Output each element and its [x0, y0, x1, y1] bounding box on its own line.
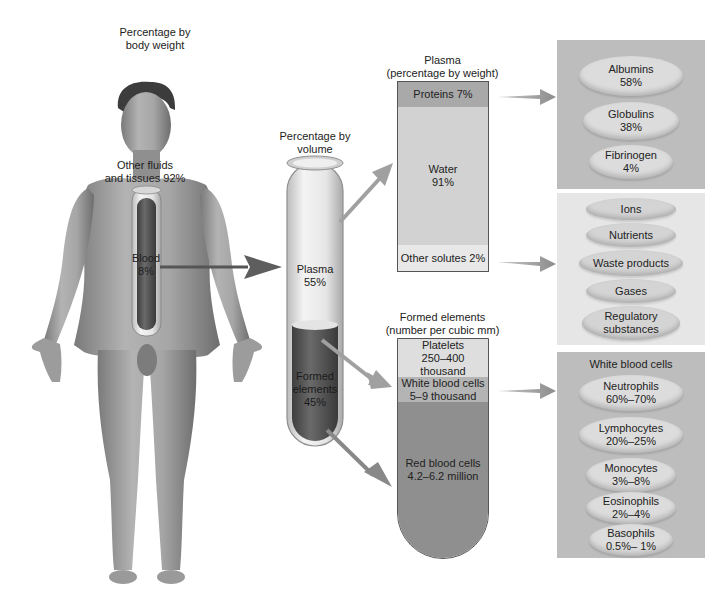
- platelets-label-line1: Platelets: [422, 339, 464, 352]
- tube-formed-line1: Formed: [285, 370, 345, 383]
- arrow-formed-to-rbc: [327, 430, 392, 487]
- neutrophils-name: Neutrophils: [603, 380, 659, 393]
- regulatory-substances-oval: Regulatory substances: [582, 306, 680, 340]
- globulins-value: 38%: [620, 121, 642, 134]
- monocytes-oval: Monocytes 3%–8%: [586, 458, 676, 492]
- basophils-name: Basophils: [607, 527, 655, 540]
- volume-title-line1: Percentage by: [270, 130, 360, 143]
- eosinophils-name: Eosinophils: [603, 495, 659, 508]
- other-fluids-line1: Other fluids: [95, 159, 195, 172]
- basophils-oval: Basophils 0.5%– 1%: [589, 524, 673, 556]
- arrow-plasma-to-box: [340, 163, 393, 222]
- albumins-oval: Albumins 58%: [579, 56, 683, 96]
- proteins-segment: Proteins 7%: [398, 82, 488, 107]
- body-weight-title: Percentage by body weight: [105, 26, 205, 52]
- other-solutes-label: Other solutes 2%: [401, 252, 485, 265]
- other-fluids-line2: and tissues 92%: [95, 172, 195, 185]
- regulatory-label-line1: Regulatory: [604, 310, 657, 323]
- lymphocytes-value: 20%–25%: [606, 435, 656, 448]
- monocytes-value: 3%–8%: [612, 475, 650, 488]
- plasma-box-title-line1: Plasma: [380, 54, 505, 67]
- platelets-segment: Platelets 250–400 thousand: [398, 339, 488, 377]
- plasma-proteins-panel: Albumins 58% Globulins 38% Fibrinogen 4%: [557, 40, 705, 189]
- volume-title: Percentage by volume: [270, 130, 360, 156]
- fibrinogen-value: 4%: [623, 162, 639, 175]
- monocytes-name: Monocytes: [604, 462, 657, 475]
- waste-products-oval: Waste products: [579, 250, 683, 276]
- water-label-line1: Water: [429, 163, 458, 176]
- ions-oval: Ions: [586, 198, 676, 220]
- lymphocytes-name: Lymphocytes: [599, 422, 663, 435]
- formed-box-title-line2: (number per cubic mm): [380, 324, 505, 337]
- proteins-label: Proteins 7%: [413, 88, 472, 101]
- gases-label: Gases: [615, 285, 647, 298]
- albumins-value: 58%: [620, 76, 642, 89]
- rbc-label-line2: 4.2–6.2 million: [408, 470, 479, 483]
- plasma-box-title: Plasma (percentage by weight): [380, 54, 505, 80]
- tube-plasma-line2: 55%: [285, 276, 345, 289]
- wbc-label-line2: 5–9 thousand: [410, 390, 477, 403]
- formed-box-title: Formed elements (number per cubic mm): [380, 311, 505, 337]
- ions-label: Ions: [621, 203, 642, 216]
- basophils-value: 0.5%– 1%: [606, 540, 656, 553]
- other-fluids-label: Other fluids and tissues 92%: [95, 159, 195, 185]
- formed-box-title-line1: Formed elements: [380, 311, 505, 324]
- formed-elements-box: Platelets 250–400 thousand White blood c…: [397, 338, 489, 559]
- rbc-segment: Red blood cells 4.2–6.2 million: [398, 402, 488, 558]
- plasma-composition-box: Proteins 7% Water 91% Other solutes 2%: [397, 81, 489, 272]
- wbc-types-panel: White blood cells Neutrophils 60%–70% Ly…: [557, 352, 705, 558]
- tube-plasma-label: Plasma 55%: [285, 263, 345, 289]
- tube-formed-line2: elements: [285, 383, 345, 396]
- eosinophils-value: 2%–4%: [612, 508, 650, 521]
- fibrinogen-oval: Fibrinogen 4%: [589, 145, 673, 179]
- fibrinogen-name: Fibrinogen: [605, 149, 657, 162]
- arrow-wbc-to-panel: [497, 383, 556, 399]
- neutrophils-value: 60%–70%: [606, 393, 656, 406]
- tube-formed-line3: 45%: [285, 396, 345, 409]
- neutrophils-oval: Neutrophils 60%–70%: [579, 375, 683, 411]
- arrow-proteins-to-panel: [497, 89, 556, 105]
- nutrients-label: Nutrients: [609, 229, 653, 242]
- lymphocytes-oval: Lymphocytes 20%–25%: [579, 417, 683, 453]
- nutrients-oval: Nutrients: [586, 223, 676, 247]
- eosinophils-oval: Eosinophils 2%–4%: [586, 492, 676, 524]
- wbc-panel-title: White blood cells: [557, 358, 705, 371]
- blood-label-line1: Blood: [126, 252, 166, 265]
- plasma-box-title-line2: (percentage by weight): [380, 67, 505, 80]
- volume-title-line2: volume: [270, 143, 360, 156]
- arrow-solutes-to-panel: [497, 256, 556, 272]
- body-weight-title-line1: Percentage by: [105, 26, 205, 39]
- blood-label: Blood 8%: [126, 252, 166, 278]
- albumins-name: Albumins: [608, 63, 653, 76]
- globulins-oval: Globulins 38%: [583, 102, 679, 140]
- water-segment: Water 91%: [398, 107, 488, 245]
- tube-formed-label: Formed elements 45%: [285, 370, 345, 409]
- wbc-label-line1: White blood cells: [401, 377, 484, 390]
- other-solutes-segment: Other solutes 2%: [398, 245, 488, 271]
- other-solutes-panel: Ions Nutrients Waste products Gases Regu…: [557, 193, 705, 345]
- blood-label-line2: 8%: [126, 265, 166, 278]
- body-weight-title-line2: body weight: [105, 39, 205, 52]
- platelets-label-line2: 250–400 thousand: [398, 352, 488, 378]
- wbc-segment: White blood cells 5–9 thousand: [398, 377, 488, 402]
- gases-oval: Gases: [586, 279, 676, 303]
- tube-plasma-line1: Plasma: [285, 263, 345, 276]
- rbc-label-line1: Red blood cells: [405, 457, 480, 470]
- waste-products-label: Waste products: [593, 257, 669, 270]
- water-label-line2: 91%: [432, 176, 454, 189]
- regulatory-label-line2: substances: [603, 323, 659, 336]
- globulins-name: Globulins: [608, 108, 654, 121]
